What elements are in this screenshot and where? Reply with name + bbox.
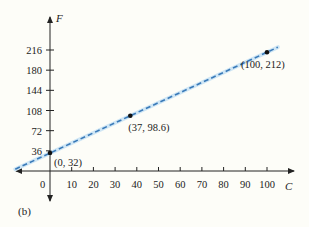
y-tick-label: 216	[26, 45, 42, 56]
point-label: (37, 98.6)	[128, 122, 170, 134]
y-axis-label: F	[55, 12, 63, 24]
axes	[16, 17, 294, 201]
x-tick-label: 20	[88, 179, 99, 190]
origin-label: 0	[40, 179, 45, 190]
data-point	[265, 50, 270, 55]
point-label: (100, 212)	[241, 59, 285, 71]
x-tick-label: 90	[240, 179, 251, 190]
series-line	[15, 47, 278, 169]
y-tick-label: 180	[26, 65, 42, 76]
chart: 102030405060708090100 3672108144180216 0…	[0, 0, 309, 227]
data-points: (0, 32)(37, 98.6)(100, 212)	[48, 50, 286, 169]
x-tick-label: 50	[153, 179, 164, 190]
x-tick-label: 40	[132, 179, 143, 190]
data-point	[48, 151, 53, 156]
x-ticks: 102030405060708090100	[66, 167, 274, 190]
x-tick-label: 100	[259, 179, 275, 190]
x-tick-label: 30	[110, 179, 121, 190]
point-label: (0, 32)	[54, 157, 82, 169]
data-point	[128, 113, 133, 118]
x-axis-label: C	[285, 180, 293, 192]
x-tick-label: 60	[175, 179, 186, 190]
panel-label: (b)	[18, 205, 31, 218]
y-tick-label: 144	[26, 85, 43, 96]
y-tick-label: 36	[32, 146, 43, 157]
y-tick-label: 108	[26, 106, 42, 117]
x-tick-label: 10	[66, 179, 77, 190]
x-tick-label: 80	[218, 179, 229, 190]
x-tick-label: 70	[197, 179, 208, 190]
y-tick-label: 72	[32, 126, 43, 137]
